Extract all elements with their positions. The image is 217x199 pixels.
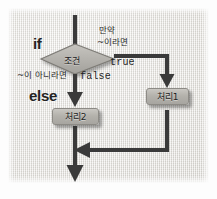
else-keyword-label: else (29, 88, 57, 104)
exit-arrowhead (67, 165, 84, 182)
process-box-2: 처리2 (52, 108, 99, 125)
process-box-2-label: 처리2 (65, 110, 87, 123)
true-branch-arrowhead (160, 74, 175, 88)
false-condition-annotation: ~이 아니라면 (17, 71, 67, 80)
false-branch-arrowhead (67, 92, 83, 107)
if-keyword-label: if (33, 36, 42, 52)
process-box-1: 처리1 (146, 88, 189, 105)
true-branch-merge-line (88, 110, 167, 150)
decision-label: 조건 (64, 54, 80, 67)
true-condition-annotation-line2: ~이라면 (97, 38, 128, 47)
false-branch-label: false (80, 72, 111, 83)
flowchart-image: 조건 if else 만약 ~이라면 ~이 아니라면 true false 처리… (0, 0, 217, 199)
process-box-1-label: 처리1 (157, 90, 179, 103)
true-branch-label: true (110, 58, 135, 69)
true-condition-annotation-line1: 만약 (99, 26, 115, 35)
